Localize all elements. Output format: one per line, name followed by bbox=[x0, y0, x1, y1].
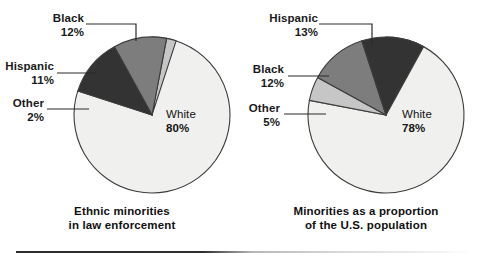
slice-label-black-right: Black 12% bbox=[240, 63, 284, 90]
slice-label-other-left: Other 2% bbox=[0, 97, 44, 124]
slice-label-other-right: Other 5% bbox=[234, 102, 280, 129]
slice-label-hispanic-left-name: Hispanic bbox=[5, 60, 54, 72]
figure-canvas: Black 12% Hispanic 11% Other 2% White 80… bbox=[0, 0, 488, 261]
chart-caption-left-line1: Ethnic minorities bbox=[0, 204, 244, 218]
slice-label-black-right-pct: 12% bbox=[240, 77, 284, 91]
slice-label-white-left: White 80% bbox=[166, 108, 196, 135]
slice-label-other-right-name: Other bbox=[249, 102, 280, 114]
chart-caption-right-line1: Minorities as a proportion bbox=[244, 204, 488, 218]
slice-label-white-right: White 78% bbox=[402, 108, 432, 135]
slice-label-black-left-pct: 12% bbox=[18, 26, 84, 40]
slice-label-hispanic-left-pct: 11% bbox=[0, 74, 54, 88]
figure-bottom-rule bbox=[16, 251, 471, 253]
chart-caption-left-line2: in law enforcement bbox=[0, 218, 244, 232]
pie-chart-us-population: Hispanic 13% Black 12% Other 5% White 78… bbox=[244, 0, 488, 261]
slice-label-white-left-pct: 80% bbox=[166, 122, 196, 136]
slice-label-white-left-name: White bbox=[166, 108, 196, 120]
chart-caption-right: Minorities as a proportion of the U.S. p… bbox=[244, 204, 488, 232]
slice-label-white-right-name: White bbox=[402, 108, 432, 120]
pie-chart-law-enforcement: Black 12% Hispanic 11% Other 2% White 80… bbox=[0, 0, 244, 261]
slice-label-hispanic-right: Hispanic 13% bbox=[252, 12, 318, 39]
slice-label-black-left-name: Black bbox=[53, 12, 84, 24]
leader-line-black-left bbox=[86, 24, 136, 41]
slice-label-black-left: Black 12% bbox=[18, 12, 84, 39]
slice-label-hispanic-left: Hispanic 11% bbox=[0, 60, 54, 87]
chart-caption-left: Ethnic minorities in law enforcement bbox=[0, 204, 244, 232]
slice-label-hispanic-right-pct: 13% bbox=[252, 26, 318, 40]
slice-label-other-left-pct: 2% bbox=[0, 111, 44, 125]
slice-label-black-right-name: Black bbox=[253, 63, 284, 75]
slice-label-white-right-pct: 78% bbox=[402, 122, 432, 136]
slice-label-hispanic-right-name: Hispanic bbox=[269, 12, 318, 24]
slice-label-other-left-name: Other bbox=[13, 97, 44, 109]
chart-caption-right-line2: of the U.S. population bbox=[244, 218, 488, 232]
slice-label-other-right-pct: 5% bbox=[234, 116, 280, 130]
